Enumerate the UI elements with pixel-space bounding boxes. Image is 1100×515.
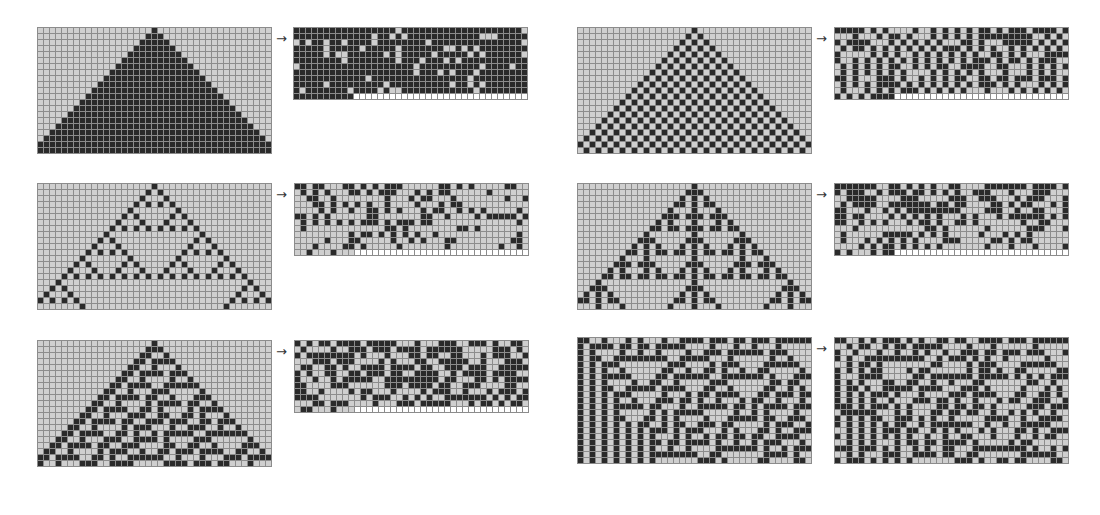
ca-evolution-rule250 xyxy=(577,27,812,154)
arrow-icon: → xyxy=(816,188,827,201)
arrow-icon: → xyxy=(816,32,827,45)
arrow-icon: → xyxy=(816,342,827,355)
sequence-grid-rule250 xyxy=(834,27,1069,100)
ca-evolution-rule30-random xyxy=(577,337,812,464)
sequence-grid-rule150 xyxy=(834,183,1069,256)
ca-evolution-rule254 xyxy=(37,27,272,154)
ca-evolution-rule90 xyxy=(37,183,272,310)
sequence-grid-rule30 xyxy=(294,340,529,413)
sequence-grid-rule30-random xyxy=(834,337,1069,464)
ca-evolution-rule150 xyxy=(577,183,812,310)
arrow-icon: → xyxy=(276,32,287,45)
arrow-icon: → xyxy=(276,188,287,201)
arrow-icon: → xyxy=(276,345,287,358)
sequence-grid-rule254 xyxy=(293,27,528,100)
sequence-grid-rule90 xyxy=(294,183,529,256)
ca-evolution-rule30 xyxy=(37,340,272,467)
